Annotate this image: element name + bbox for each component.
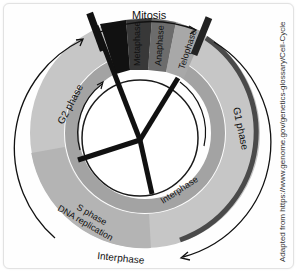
mitosis-title: Mitosis: [132, 9, 167, 21]
prophase-label: Prophase: [111, 25, 122, 64]
interphase-outer-label: Interphase: [97, 250, 146, 266]
source-credit: Adapted from https://www.genome.gov/gene…: [278, 21, 287, 262]
cell-cycle-diagram: Prophase Metaphase Anaphase Telophase Mi…: [0, 0, 296, 271]
metaphase-label: Metaphase: [132, 21, 142, 66]
